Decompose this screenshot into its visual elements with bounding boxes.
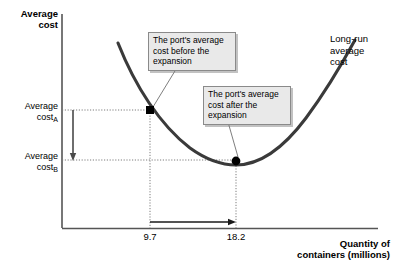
cost-decrease-arrow (70, 110, 76, 161)
curve-label-long-run-average-cost: Long-run average cost (330, 33, 368, 68)
data-point-before-expansion (146, 106, 154, 114)
y-tick-a-subscript: A (53, 116, 58, 123)
data-point-after-expansion (232, 157, 241, 166)
leader-line-after (228, 122, 238, 157)
callout-after-expansion: The port's average cost after the expans… (203, 86, 291, 125)
y-tick-b-subscript: B (53, 166, 58, 173)
y-axis-title: Average cost (6, 8, 58, 30)
callout-before-expansion: The port's average cost before the expan… (148, 32, 236, 71)
quantity-increase-arrow (150, 219, 236, 225)
leader-line-before (153, 66, 178, 107)
x-axis-title: Quantity of containers (millions) (258, 238, 390, 260)
y-axis-tick-label-cost-a: Average costA (4, 101, 58, 123)
x-axis-tick-label-18-2: 18.2 (216, 231, 256, 242)
y-axis-tick-label-cost-b: Average costB (4, 151, 58, 173)
x-axis-tick-label-9-7: 9.7 (130, 231, 170, 242)
chart-figure: Average cost Quantity of containers (mil… (0, 0, 394, 277)
